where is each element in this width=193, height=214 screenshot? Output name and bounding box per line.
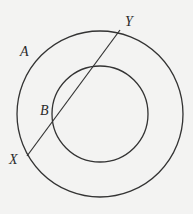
label-a: A xyxy=(19,44,29,59)
label-x: X xyxy=(8,152,18,167)
label-y: Y xyxy=(125,14,135,29)
concentric-circles-diagram: A B X Y xyxy=(0,0,193,214)
label-b: B xyxy=(40,103,49,118)
diagram-canvas: A B X Y xyxy=(0,0,193,214)
chord-xy xyxy=(27,30,120,156)
inner-circle xyxy=(52,66,148,162)
